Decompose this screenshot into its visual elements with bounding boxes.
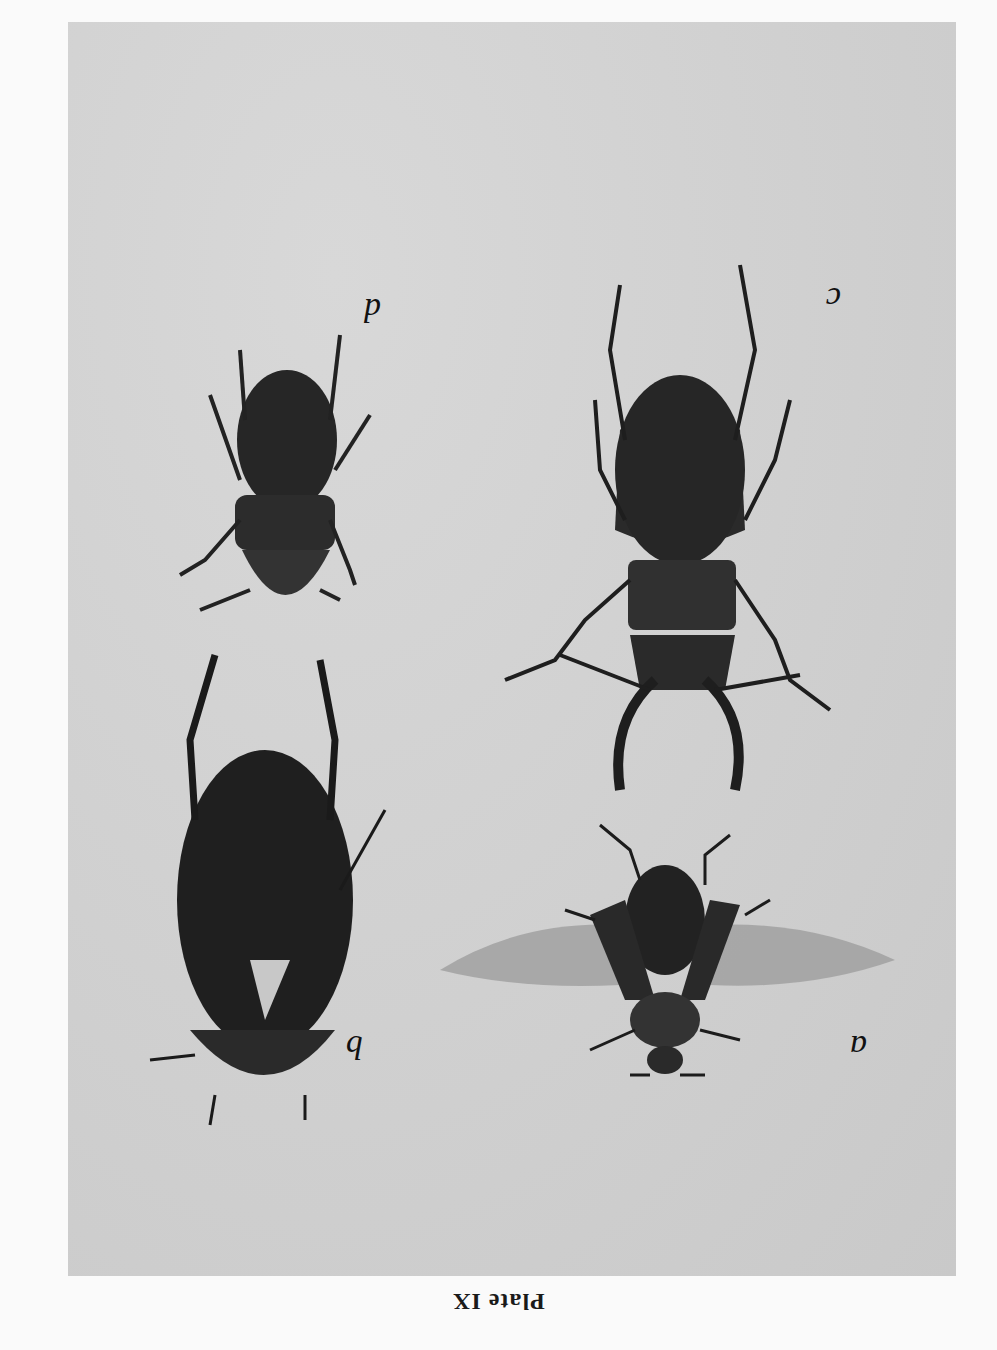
label-a: a <box>850 1030 867 1064</box>
specimen-a-beetle <box>440 825 895 1075</box>
beetle-illustrations <box>68 22 956 1276</box>
specimen-d-beetle <box>180 335 370 610</box>
specimen-c-beetle <box>505 265 830 790</box>
label-c: c <box>826 282 841 316</box>
label-b: b <box>346 1030 363 1064</box>
plate-caption: Plate IX <box>0 1288 997 1315</box>
photo-plate <box>68 22 956 1276</box>
label-d: d <box>364 293 381 327</box>
